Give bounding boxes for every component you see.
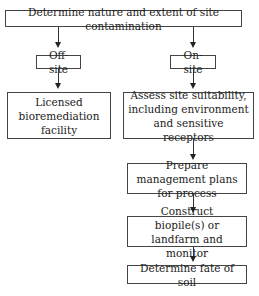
node-label: Assess site suitability, including envir…: [127, 88, 250, 144]
arrow-onsite-assess: [193, 69, 194, 84]
node-assess-suitability: Assess site suitability, including envir…: [123, 92, 254, 139]
node-label: Prepare management plans for process: [131, 158, 243, 200]
node-label: Determine nature and extent of site cont…: [9, 5, 238, 33]
node-prepare-plans: Prepare management plans for process: [127, 163, 247, 194]
node-licensed-facility: Licensed bioremediation facility: [7, 92, 111, 139]
node-construct-biopile: Construct biopile(s) or landfarm and mon…: [127, 216, 247, 247]
node-label: Construct biopile(s) or landfarm and mon…: [136, 204, 238, 260]
node-on-site: On-site: [170, 55, 216, 69]
node-determine-contamination: Determine nature and extent of site cont…: [5, 10, 242, 27]
node-determine-fate: Determine fate of soil: [127, 265, 247, 284]
arrow-assess-prepare: [193, 139, 194, 155]
node-label: Licensed bioremediation facility: [19, 95, 100, 137]
node-off-site: Off-site: [36, 55, 81, 69]
arrow-offsite-licensed: [58, 69, 59, 84]
arrowhead-icon: [55, 83, 61, 89]
node-label: Determine fate of soil: [131, 261, 243, 289]
